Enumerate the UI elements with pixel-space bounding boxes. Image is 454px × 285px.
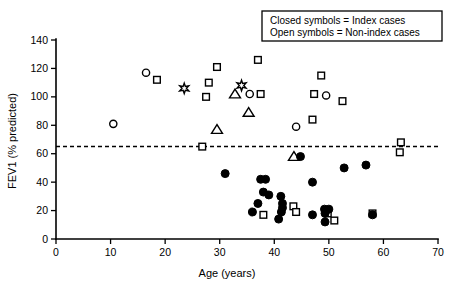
legend: Closed symbols = Index cases Open symbol… [262,11,442,41]
data-point-closed-circle [275,215,283,223]
y-tick-label: 100 [30,90,48,102]
data-point-open-square [398,139,405,146]
data-point-closed-circle [362,161,370,169]
y-axis-ticks: 020406080100120140 [30,34,56,245]
data-point-open-square [255,57,262,64]
axes-group: 020406080100120140 010203040506070 [30,34,444,258]
y-tick-label: 60 [36,147,48,159]
chart-figure: 020406080100120140 010203040506070 Age (… [0,0,454,285]
data-point-closed-circle [340,164,348,172]
data-markers-group [110,57,405,226]
x-tick-label: 0 [53,246,59,258]
x-tick-label: 60 [378,246,390,258]
legend-item-open: Open symbols = Non-index cases [270,27,420,38]
data-point-open-square [260,212,267,219]
legend-item-closed: Closed symbols = Index cases [270,15,405,26]
data-point-open-square [311,91,318,98]
y-tick-label: 20 [36,204,48,216]
x-axis-ticks: 010203040506070 [53,239,444,258]
y-axis-title: FEV1 (% predicted) [6,93,18,189]
x-tick-label: 10 [105,246,117,258]
data-point-open-triangle [243,108,254,117]
scatter-plot-svg: 020406080100120140 010203040506070 Age (… [0,0,454,285]
data-point-closed-circle [308,211,316,219]
data-point-open-triangle [212,125,223,134]
data-point-closed-circle [248,208,256,216]
data-point-closed-circle [369,211,377,219]
x-tick-label: 20 [159,246,171,258]
y-tick-label: 40 [36,176,48,188]
data-point-closed-circle [321,209,329,217]
data-point-open-square [154,76,161,83]
data-point-open-circle [293,123,300,130]
data-point-closed-circle [221,170,229,178]
data-point-open-square [309,116,316,123]
x-tick-label: 70 [432,246,444,258]
data-point-open-circle [142,69,149,76]
y-tick-label: 80 [36,119,48,131]
data-point-open-square [257,91,264,98]
data-point-open-square [205,79,212,86]
data-point-closed-circle [308,178,316,186]
data-point-closed-circle [265,191,273,199]
y-tick-label: 140 [30,34,48,46]
data-point-open-circle [110,120,117,127]
data-point-open-square [293,209,300,216]
data-point-open-square [331,217,338,224]
data-point-open-square [339,98,346,105]
data-point-open-square [203,94,210,101]
x-tick-label: 40 [268,246,280,258]
data-point-open-square [318,72,325,79]
x-tick-label: 30 [214,246,226,258]
data-point-closed-circle [262,175,270,183]
x-axis-title: Age (years) [199,267,256,279]
data-point-open-square [396,149,403,156]
data-point-open-circle [323,92,330,99]
data-point-open-square [214,64,221,71]
data-point-open-circle [246,90,253,97]
data-point-closed-circle [254,199,262,207]
data-point-closed-circle [321,218,329,226]
data-point-closed-circle [296,153,304,161]
data-point-open-square [199,143,206,150]
data-point-star [237,80,246,90]
y-tick-label: 120 [30,62,48,74]
data-point-open-triangle [230,89,241,98]
y-tick-label: 0 [42,233,48,245]
data-point-star [180,83,189,93]
x-tick-label: 50 [323,246,335,258]
